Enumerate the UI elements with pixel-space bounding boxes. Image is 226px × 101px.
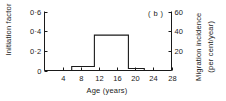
tick-label: 40 xyxy=(175,27,197,36)
tick-label: 0·4 xyxy=(9,27,42,36)
tick-label: 16 xyxy=(109,74,127,83)
tick-label: 20 xyxy=(175,47,197,56)
tick-label: 0 xyxy=(9,67,42,76)
tick-label: 60 xyxy=(175,8,197,17)
axis-lines xyxy=(45,12,172,71)
tick-label: 8 xyxy=(73,74,91,83)
tick-label: 28 xyxy=(164,74,182,83)
figure-panel-b: Initiation factor Migration incidence (p… xyxy=(0,0,226,101)
tick-label: 4 xyxy=(55,74,73,83)
tick-label: 24 xyxy=(145,74,163,83)
tick-label: 20 xyxy=(127,74,145,83)
tick-label: 0·2 xyxy=(9,47,42,56)
tick-label: 0·6 xyxy=(9,8,42,17)
tick-label: 12 xyxy=(91,74,109,83)
step-series-line xyxy=(45,35,172,70)
